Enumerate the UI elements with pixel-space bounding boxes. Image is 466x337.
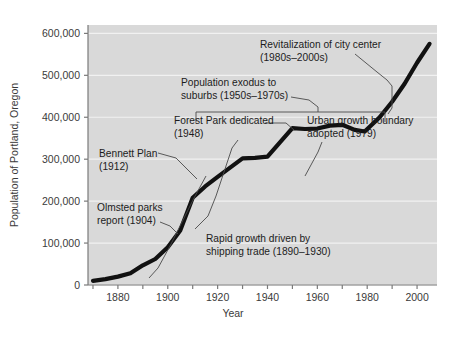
annotation-revitalization-line2: (1980s–2000s): [260, 52, 328, 63]
annotation-bennett-plan-line2: (1912): [99, 161, 128, 172]
population-line-chart: 0100,000200,000300,000400,000500,000600,…: [0, 0, 466, 337]
annotation-forest-park-line1: Forest Park dedicated: [174, 115, 274, 126]
annotation-rapid-growth-line2: shipping trade (1890–1930): [206, 246, 331, 257]
annotation-revitalization-line1: Revitalization of city center: [260, 39, 382, 50]
y-tick-label-200000: 200,000: [42, 195, 80, 207]
y-axis-title: Population of Portland, Oregon: [8, 83, 20, 227]
annotation-population-exodus-line1: Population exodus to: [181, 77, 276, 88]
chart-figure: 0100,000200,000300,000400,000500,000600,…: [0, 0, 466, 337]
y-tick-label-300000: 300,000: [42, 153, 80, 165]
x-tick-label-1880: 1880: [106, 291, 130, 303]
x-tick-label-1920: 1920: [206, 291, 230, 303]
y-tick-label-100000: 100,000: [42, 237, 80, 249]
x-tick-label-1900: 1900: [156, 291, 180, 303]
y-tick-label-600000: 600,000: [42, 27, 80, 39]
x-tick-label-1980: 1980: [356, 291, 380, 303]
annotation-urban-growth-line1: Urban growth boundary: [307, 115, 414, 126]
x-tick-label-1960: 1960: [306, 291, 330, 303]
x-tick-label-2000: 2000: [405, 291, 429, 303]
annotation-rapid-growth-line1: Rapid growth driven by: [206, 233, 311, 244]
annotation-urban-growth-line2: adopted (1979): [307, 128, 376, 139]
annotation-population-exodus-line2: suburbs (1950s–1970s): [181, 90, 288, 101]
annotation-bennett-plan-line1: Bennett Plan: [99, 148, 157, 159]
annotation-olmsted-line2: report (1904): [97, 215, 156, 226]
annotation-olmsted-line1: Olmsted parks: [97, 202, 163, 213]
x-tick-label-1940: 1940: [256, 291, 280, 303]
y-tick-label-0: 0: [74, 279, 80, 291]
annotation-forest-park-line2: (1948): [174, 128, 203, 139]
y-tick-label-400000: 400,000: [42, 111, 80, 123]
x-axis-title: Year: [222, 307, 244, 319]
y-tick-label-500000: 500,000: [42, 69, 80, 81]
